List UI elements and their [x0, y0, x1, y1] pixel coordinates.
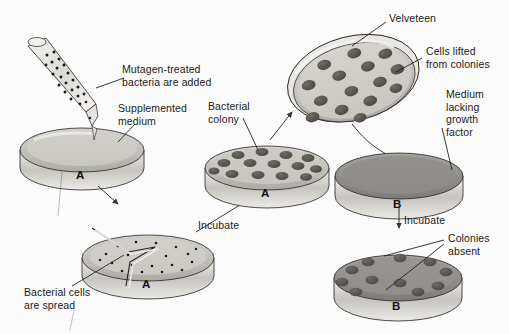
label-bacterial-cells-spread: Bacterial cells are spread: [24, 286, 90, 311]
label-mutagen-treated: Mutagen-treated bacteria are added: [122, 63, 211, 88]
guide-line-bottom: [70, 310, 74, 330]
pipette-with-bacteria: [28, 38, 98, 141]
arrow-to-velveteen: [270, 112, 292, 140]
velveteen-disc: [278, 21, 429, 137]
label-colonies-absent: Colonies absent: [448, 232, 490, 257]
plate-mark-minimal: B: [393, 198, 401, 210]
label-incubate-right: Incubate: [404, 214, 445, 227]
plate-mark-master: A: [261, 187, 269, 199]
plate-mark-spread: A: [142, 278, 150, 290]
label-cells-lifted: Cells lifted from colonies: [426, 45, 490, 70]
arrow-to-spread-plate: [98, 186, 118, 204]
label-bacterial-colony: Bacterial colony: [208, 100, 250, 125]
leader-mutagen: [96, 78, 124, 88]
label-velveteen: Velveteen: [389, 12, 436, 25]
label-medium-lacking: Medium lacking growth factor: [446, 88, 484, 138]
replica-plating-figure: A: [0, 0, 509, 334]
plate-mark-supplemented: A: [76, 169, 84, 181]
label-incubate-left: Incubate: [198, 219, 239, 232]
plate-mark-replica: B: [392, 300, 400, 312]
leader-colonies-absent-1: [384, 240, 444, 256]
label-supplemented-medium: Supplemented medium: [118, 102, 187, 127]
